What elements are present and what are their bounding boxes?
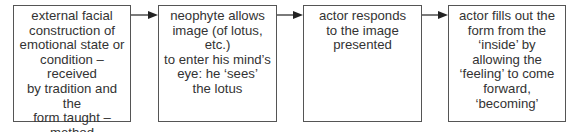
flow-step-2-neophyte-image: neophyte allows image (of lotus, etc.) t… — [158, 5, 277, 122]
flow-step-4-actor-becoming: actor fills out the form from the ‘insid… — [448, 5, 566, 122]
arrow-right-icon — [131, 9, 158, 21]
flow-step-3-actor-responds: actor responds to the image presented — [303, 5, 422, 122]
arrow-right-icon — [422, 9, 448, 21]
arrow-right-icon — [277, 9, 303, 21]
flow-step-1-external-construction: external facial construction of emotiona… — [13, 5, 131, 122]
